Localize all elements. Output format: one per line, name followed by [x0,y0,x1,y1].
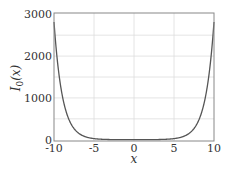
y-tick-label: 1000 [24,92,52,105]
x-tick-label: 10 [207,142,221,155]
y-tick-label: 3000 [24,8,52,21]
grid-lines [54,13,214,141]
y-tick-label: 0 [45,134,52,147]
y-axis-label: I0(x) [9,64,25,92]
bessel-i0-chart: -10-50510 0100020003000 x I0(x) [0,0,229,171]
x-tick-label: -5 [89,142,100,155]
x-tick-label: 5 [171,142,178,155]
y-tick-labels: 0100020003000 [24,8,52,146]
y-tick-label: 2000 [24,50,52,63]
x-axis-label: x [131,152,138,166]
y-axis-label-arg: (x) [9,64,23,80]
